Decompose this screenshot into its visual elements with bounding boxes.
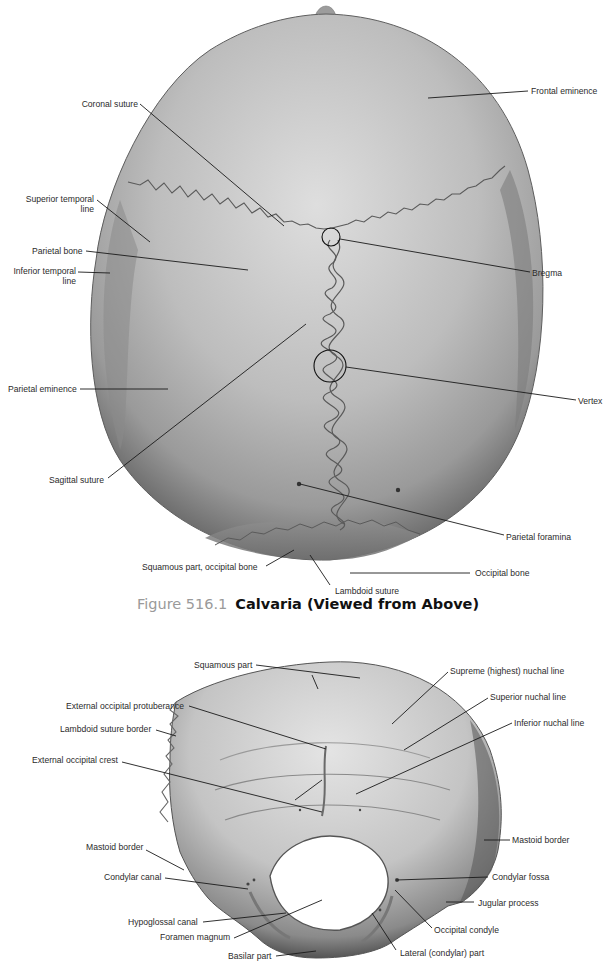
label-inferior-temporal-line-1: Inferior temporal [0,266,76,276]
label-inferior-temporal-line: Inferior temporal line [0,266,76,286]
label-supreme-nuchal-line: Supreme (highest) nuchal line [450,666,564,676]
label-squamous-part: Squamous part [194,660,252,670]
label-lambdoid-suture: Lambdoid suture [335,586,399,596]
label-basilar-part: Basilar part [228,951,271,961]
figure-calvaria: Coronal suture Frontal eminence Superior… [0,0,616,610]
label-occipital-bone: Occipital bone [475,568,529,578]
label-condylar-fossa: Condylar fossa [492,872,549,882]
label-foramen-magnum: Foramen magnum [160,932,230,942]
figure-occipital-bone: Squamous part Supreme (highest) nuchal l… [0,640,616,966]
label-mastoid-border-right: Mastoid border [512,835,569,845]
occipital-illustration [0,640,616,966]
label-superior-temporal-line-1: Superior temporal [10,194,94,204]
calvaria-outline [91,14,543,560]
label-hypoglossal-canal: Hypoglossal canal [128,917,198,927]
label-mastoid-border-left: Mastoid border [86,842,143,852]
label-superior-temporal-line: Superior temporal line [10,194,94,214]
figure-number: Figure 516.1 [137,596,227,612]
label-external-occipital-crest: External occipital crest [32,755,118,765]
label-condylar-canal: Condylar canal [104,872,161,882]
label-superior-temporal-line-2: line [10,204,94,214]
label-frontal-eminence: Frontal eminence [531,86,597,96]
label-vertex: Vertex [578,396,602,406]
label-parietal-eminence: Parietal eminence [8,384,77,394]
label-lateral-condylar-part: Lateral (condylar) part [400,948,484,958]
label-coronal-suture: Coronal suture [60,99,138,109]
parietal-foramen-right [396,488,400,492]
label-jugular-process: Jugular process [478,898,539,908]
label-occipital-condyle: Occipital condyle [434,925,499,935]
label-inferior-nuchal-line: Inferior nuchal line [514,718,584,728]
label-parietal-bone: Parietal bone [32,246,83,256]
label-squamous-part-occipital: Squamous part, occipital bone [142,562,258,572]
label-lambdoid-suture-border: Lambdoid suture border [60,724,151,734]
label-external-occipital-protuberance: External occipital protuberance [66,701,184,711]
figure-title: Calvaria (Viewed from Above) [235,596,479,612]
label-inferior-temporal-line-2: line [0,276,76,286]
label-sagittal-suture: Sagittal suture [49,475,104,485]
figure-caption: Figure 516.1Calvaria (Viewed from Above) [0,596,616,612]
label-parietal-foramina: Parietal foramina [506,532,571,542]
label-bregma: Bregma [532,268,562,278]
label-superior-nuchal-line: Superior nuchal line [490,692,566,702]
calvaria-illustration [0,0,616,610]
